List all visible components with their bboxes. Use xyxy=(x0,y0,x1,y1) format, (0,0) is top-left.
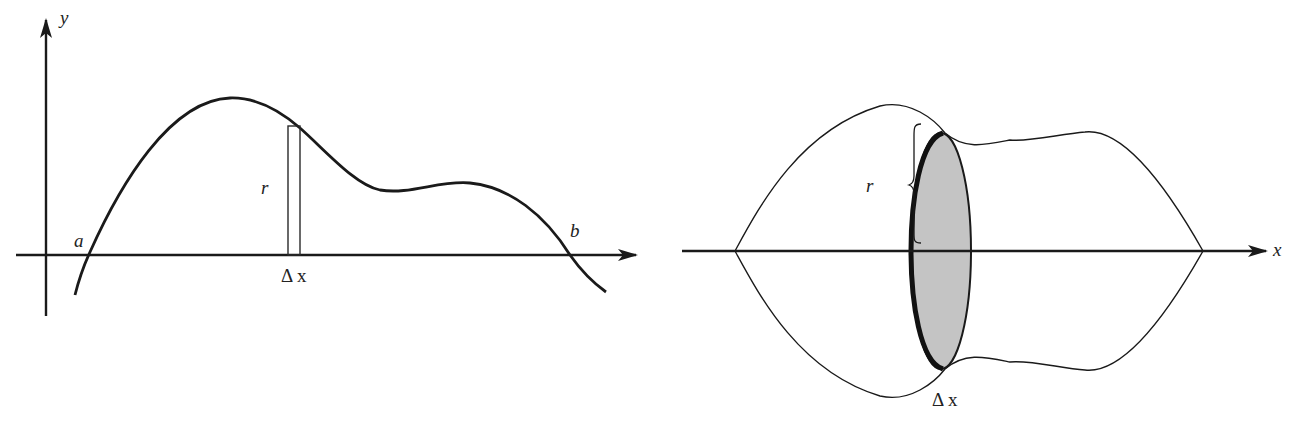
label-a: a xyxy=(74,230,84,251)
riemann-rectangle xyxy=(288,126,300,255)
x-axis-label: x xyxy=(1272,239,1282,260)
label-b: b xyxy=(570,220,580,241)
label-delta-x-left: Δ x xyxy=(281,265,307,286)
label-delta-x-right: Δ x xyxy=(932,389,958,410)
left-panel: y a r Δ x b xyxy=(16,7,636,316)
y-axis-label: y xyxy=(58,7,69,28)
function-curve xyxy=(75,98,606,295)
label-r-right: r xyxy=(866,175,874,196)
solid-of-revolution-diagram: y a r Δ x b r Δ x x xyxy=(0,0,1303,426)
right-panel: r Δ x x xyxy=(682,105,1282,410)
label-r-left: r xyxy=(261,177,269,198)
